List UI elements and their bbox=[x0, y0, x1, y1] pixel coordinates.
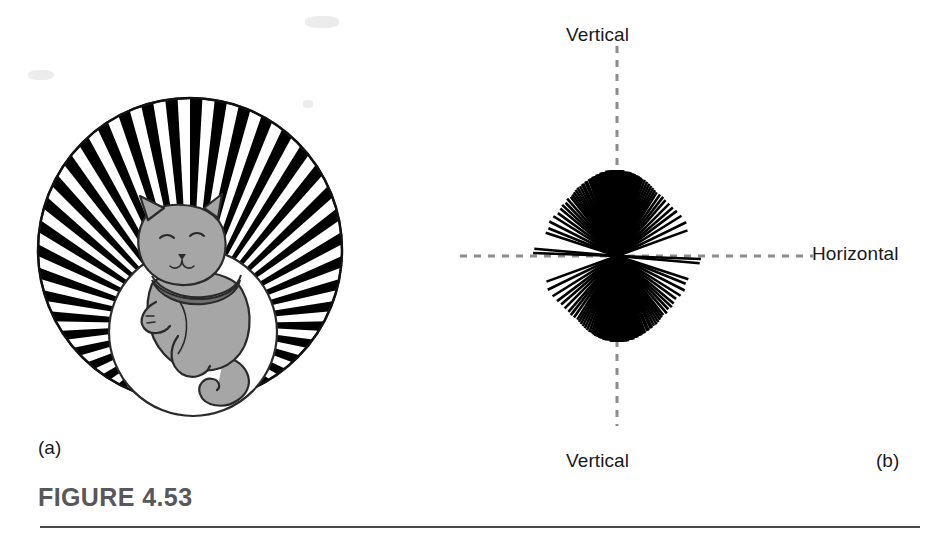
panel-a-kitten-image: (a) bbox=[0, 0, 420, 470]
axis-label-vertical-top: Vertical bbox=[566, 24, 629, 46]
figure-page: (a) (b) Vertical Vertical Horizontal FIG… bbox=[0, 0, 934, 536]
figure-rule bbox=[40, 526, 920, 528]
panel-caption-a: (a) bbox=[38, 437, 61, 459]
axis-label-horizontal: Horizontal bbox=[812, 243, 899, 265]
panel-caption-b: (b) bbox=[876, 450, 899, 472]
kitten-in-striped-drum-illustration bbox=[28, 88, 368, 418]
axis-label-vertical-bottom: Vertical bbox=[566, 450, 629, 472]
orientation-fan-chart bbox=[430, 10, 930, 460]
panel-b-orientation-plot: (b) bbox=[420, 0, 934, 470]
figure-title: FIGURE 4.53 bbox=[38, 483, 192, 512]
